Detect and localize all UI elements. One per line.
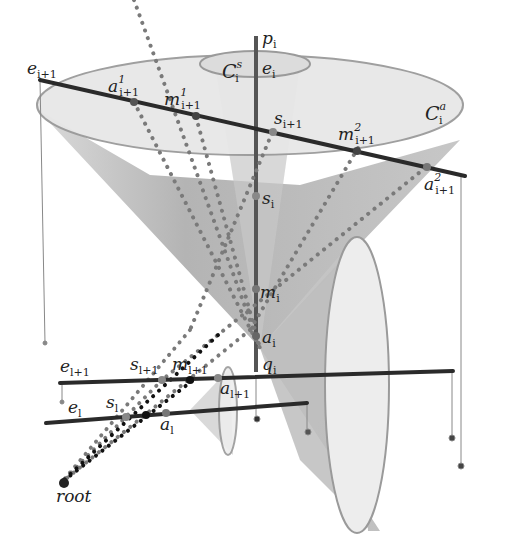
label-m-l1: ml+1 <box>172 354 208 377</box>
label-p-i: pi <box>262 28 277 51</box>
label-s-l: sl <box>106 392 119 415</box>
diagram-canvas: pi ei Csi Cai ei+1 a1i+1 m1i+1 si+1 m2i+… <box>0 0 505 535</box>
label-e-l1: el+1 <box>60 356 90 379</box>
label-a-l: al <box>160 414 174 437</box>
label-e-i1: ei+1 <box>27 58 57 81</box>
label-a2-i1: a2i+1 <box>424 171 455 197</box>
edge-e-l <box>46 403 307 423</box>
label-root: root <box>56 486 92 506</box>
label-s-l1: sl+1 <box>130 354 158 377</box>
cone-diagram: pi ei Csi Cai ei+1 a1i+1 m1i+1 si+1 m2i+… <box>0 0 505 535</box>
label-e-l: el <box>68 397 82 420</box>
